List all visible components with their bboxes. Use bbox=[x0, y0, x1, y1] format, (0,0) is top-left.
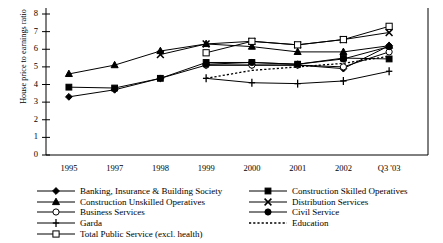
legend-item-label: Education bbox=[288, 218, 329, 228]
data-point-marker bbox=[203, 50, 209, 56]
legend-column-right: Construction Skilled OperativesDistribut… bbox=[248, 186, 407, 228]
y-axis-tick-label: 1 bbox=[24, 131, 38, 141]
y-axis-tick-label: 8 bbox=[24, 8, 38, 18]
data-point-marker bbox=[340, 77, 346, 85]
chart-container: House price to earnings ratio Banking, I… bbox=[0, 0, 443, 243]
x-axis-tick-label: Q3 '03 bbox=[362, 163, 416, 173]
data-point-marker bbox=[340, 64, 346, 70]
data-point-marker bbox=[249, 59, 255, 65]
data-point-marker bbox=[249, 38, 255, 44]
data-point-marker bbox=[53, 209, 59, 215]
data-point-marker bbox=[249, 79, 255, 87]
legend-marker-icon bbox=[248, 207, 288, 217]
legend-marker-icon bbox=[36, 218, 76, 228]
data-point-marker bbox=[203, 61, 209, 67]
data-point-marker bbox=[265, 188, 271, 194]
legend-item-label: Distribution Services bbox=[288, 197, 368, 207]
legend-item[interactable]: Garda bbox=[36, 218, 222, 229]
y-axis-tick-label: 5 bbox=[24, 61, 38, 71]
legend-marker-icon bbox=[36, 229, 76, 239]
data-point-marker bbox=[53, 231, 59, 237]
y-axis-tick-label: 6 bbox=[24, 43, 38, 53]
data-point-marker bbox=[340, 36, 346, 42]
data-point-marker bbox=[386, 44, 392, 50]
legend-marker-icon bbox=[248, 186, 288, 196]
legend-item[interactable]: Education bbox=[248, 218, 407, 229]
legend-item[interactable]: Construction Skilled Operatives bbox=[248, 186, 407, 197]
legend-marker-icon bbox=[248, 197, 288, 207]
legend-item-label: Business Services bbox=[76, 207, 145, 217]
legend-item-label: Civil Service bbox=[288, 207, 339, 217]
data-point-marker bbox=[53, 198, 60, 204]
legend-item[interactable]: Business Services bbox=[36, 207, 222, 218]
legend-item-label: Construction Unskilled Operatives bbox=[76, 197, 205, 207]
legend-item-label: Total Public Service (excl. health) bbox=[76, 229, 203, 239]
data-point-marker bbox=[265, 209, 271, 215]
legend-item-label: Construction Skilled Operatives bbox=[288, 186, 407, 196]
legend-item[interactable]: Banking, Insurance & Building Society bbox=[36, 186, 222, 197]
legend-column-left: Banking, Insurance & Building SocietyCon… bbox=[36, 186, 222, 239]
data-point-marker bbox=[295, 42, 301, 48]
legend-marker-icon bbox=[36, 186, 76, 196]
data-point-marker bbox=[386, 23, 392, 29]
legend-marker-icon bbox=[36, 197, 76, 207]
legend-item[interactable]: Construction Unskilled Operatives bbox=[36, 197, 222, 208]
data-point-marker bbox=[340, 56, 346, 62]
legend-marker-icon bbox=[248, 218, 288, 228]
y-axis-tick-label: 3 bbox=[24, 96, 38, 106]
data-point-marker bbox=[386, 67, 392, 75]
data-point-marker bbox=[294, 80, 300, 88]
legend-item[interactable]: Civil Service bbox=[248, 207, 407, 218]
y-axis-tick-label: 2 bbox=[24, 114, 38, 124]
legend-marker-icon bbox=[36, 207, 76, 217]
legend-item-label: Garda bbox=[76, 218, 102, 228]
series-6 bbox=[203, 67, 392, 87]
data-point-marker bbox=[65, 93, 72, 100]
data-point-marker bbox=[112, 85, 118, 91]
y-axis-tick-label: 4 bbox=[24, 79, 38, 89]
data-point-marker bbox=[53, 188, 60, 195]
series-line bbox=[69, 58, 389, 88]
data-point-marker bbox=[66, 84, 72, 90]
legend-item[interactable]: Total Public Service (excl. health) bbox=[36, 228, 222, 239]
data-point-marker bbox=[53, 219, 59, 227]
data-point-marker bbox=[157, 75, 163, 81]
legend-item[interactable]: Distribution Services bbox=[248, 197, 407, 208]
y-axis-tick-label: 7 bbox=[24, 26, 38, 36]
y-axis-tick-label: 0 bbox=[24, 149, 38, 159]
legend-item-label: Banking, Insurance & Building Society bbox=[76, 186, 222, 196]
